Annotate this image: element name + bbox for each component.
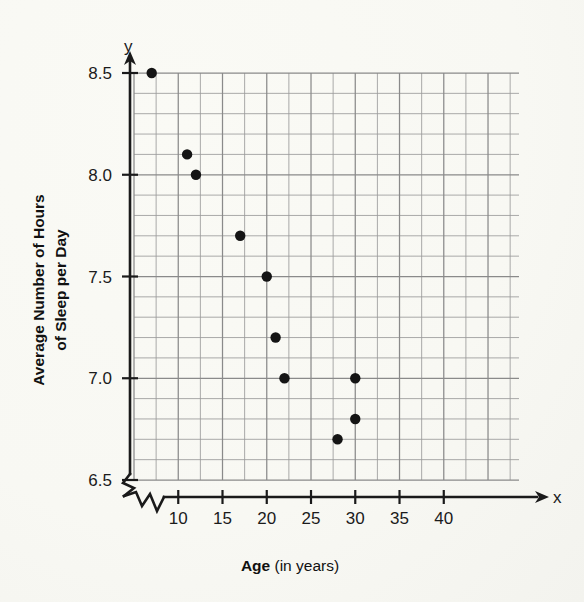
data-point (350, 373, 360, 383)
y-tick-label: 7.5 (88, 268, 112, 287)
data-point (279, 373, 289, 383)
y-tick-label: 8.0 (88, 166, 112, 185)
y-tick-labels: 6.57.07.58.08.5 (88, 64, 112, 490)
x-tick-label: 30 (346, 509, 365, 528)
x-tick-labels: 10152025303540 (169, 509, 453, 528)
x-axis-break-symbol (124, 492, 164, 511)
y-axis-title-line2: of Sleep per Day (52, 229, 69, 351)
y-axis-letter: y (124, 37, 133, 56)
plot-svg: 10152025303540 6.57.07.58.08.5 x y Age (… (0, 0, 584, 602)
x-axis-letter: x (553, 488, 562, 507)
data-point (182, 149, 192, 159)
data-point (350, 414, 360, 424)
x-tick-label: 25 (302, 509, 321, 528)
y-tick-label: 6.5 (88, 471, 112, 490)
x-axis-title-rest: (in years) (270, 557, 339, 574)
y-axis-title-line1: Average Number of Hours (30, 194, 47, 386)
x-tick-label: 10 (169, 509, 188, 528)
data-point (332, 434, 342, 444)
x-tick-label: 15 (213, 509, 232, 528)
y-tick-label: 8.5 (88, 64, 112, 83)
x-axis-title: Age (in years) (241, 557, 339, 574)
data-point (270, 332, 280, 342)
data-point (235, 231, 245, 241)
x-axis-title-bold: Age (241, 557, 271, 574)
data-point (191, 170, 201, 180)
y-axis-title-group: Average Number of Hours of Sleep per Day (30, 194, 69, 386)
data-point (262, 271, 272, 281)
x-tick-label: 35 (390, 509, 409, 528)
x-tick-label: 40 (434, 509, 453, 528)
data-point (147, 68, 157, 78)
y-tick-label: 7.0 (88, 369, 112, 388)
scatter-plot-figure: 10152025303540 6.57.07.58.08.5 x y Age (… (0, 0, 584, 602)
x-tick-label: 20 (257, 509, 276, 528)
